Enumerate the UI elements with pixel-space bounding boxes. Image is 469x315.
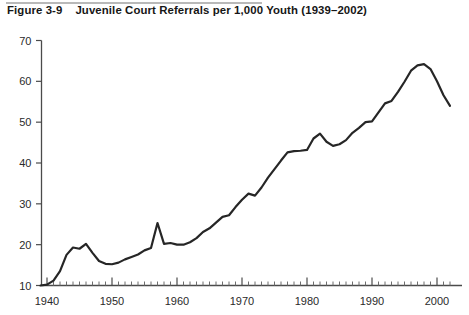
line-chart: 10203040506070 1940195019601970198019902… xyxy=(0,0,469,315)
x-tick-label: 1980 xyxy=(295,295,319,307)
chart-plot-area: 10203040506070 1940195019601970198019902… xyxy=(0,0,469,315)
x-tick-label: 1960 xyxy=(165,295,189,307)
y-tick-label: 60 xyxy=(19,75,31,87)
y-tick-label: 50 xyxy=(19,116,31,128)
x-tick-label: 1940 xyxy=(35,295,59,307)
y-tick-label: 20 xyxy=(19,239,31,251)
y-tick-label: 10 xyxy=(19,280,31,292)
x-tick-label: 1990 xyxy=(360,295,384,307)
x-tick-label: 1950 xyxy=(100,295,124,307)
y-tick-label: 40 xyxy=(19,157,31,169)
y-tick-label: 70 xyxy=(19,35,31,47)
x-tick-label: 1970 xyxy=(230,295,254,307)
x-axis: 1940195019601970198019902000 xyxy=(35,278,462,307)
data-series-line xyxy=(41,64,451,285)
x-tick-label: 2000 xyxy=(425,295,449,307)
figure-container: Figure 3-9Juvenile Court Referrals per 1… xyxy=(0,0,469,315)
y-tick-label: 30 xyxy=(19,198,31,210)
y-axis: 10203040506070 xyxy=(19,35,41,292)
